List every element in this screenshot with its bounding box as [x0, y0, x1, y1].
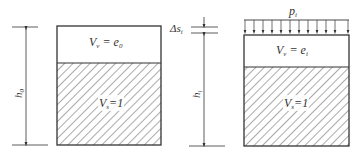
initial-state-diagram: h0 Vv = e0 Vs=1: [12, 26, 161, 145]
void-volume-label: Vv = e0: [89, 35, 123, 50]
phase-diagram: h0 Vv = e0 Vs=1 Δsi: [0, 0, 358, 160]
height-dimension-hi: hi: [189, 34, 225, 146]
distributed-load: pi: [244, 4, 349, 32]
solid-volume-label: Vs=1: [284, 96, 308, 111]
delta-s-label: Δsi: [169, 22, 183, 36]
void-volume-label: Vv = ei: [276, 43, 308, 58]
hi-label: hi: [190, 91, 204, 99]
compressed-state-diagram: Δsi hi pi: [169, 4, 349, 146]
h0-label: h0: [12, 89, 26, 99]
load-arrows: [245, 20, 348, 32]
settlement-dimension: Δsi: [169, 17, 218, 36]
solid-volume-label: Vs=1: [99, 96, 123, 111]
height-dimension-h0: h0: [12, 27, 48, 145]
load-label: pi: [288, 4, 297, 19]
